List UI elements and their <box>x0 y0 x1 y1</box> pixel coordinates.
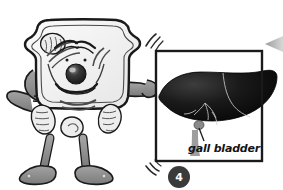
left-eye <box>66 59 69 62</box>
mitochondrion-bottom-right <box>98 104 121 133</box>
artwork-layer <box>0 0 283 190</box>
step-number-badge: 4 <box>168 166 190 188</box>
illustration-canvas: gall bladder 4 <box>0 0 283 190</box>
nucleolus-center <box>61 117 83 137</box>
gall-bladder-label: gall bladder <box>188 142 260 155</box>
right-edge-arrow-icon <box>265 36 283 52</box>
right-eye <box>84 59 87 62</box>
nose <box>66 64 86 84</box>
mitochondrion-bottom-left <box>31 105 55 134</box>
character-legs <box>19 138 112 184</box>
character-body <box>25 19 140 109</box>
